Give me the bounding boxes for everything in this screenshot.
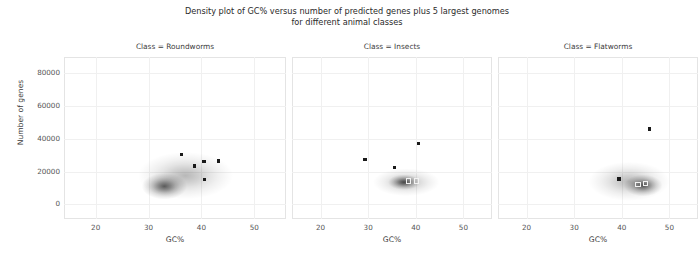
x-tick-label: 20 (512, 223, 542, 232)
scatter-point (406, 178, 411, 183)
x-axis-label-insects: GC% (292, 235, 492, 244)
x-tick-label: 50 (654, 223, 684, 232)
panel-title-roundworms: Class = Roundworms (64, 42, 286, 51)
x-axis-label-roundworms: GC% (64, 235, 286, 244)
x-tick-label: 20 (306, 223, 336, 232)
scatter-point (193, 164, 196, 167)
y-tick-label: 0 (14, 199, 60, 208)
figure-title: Density plot of GC% versus number of pre… (0, 6, 694, 28)
plot-area-insects (292, 57, 492, 219)
scatter-point (217, 159, 220, 162)
panel-title-flatworms: Class = Flatworms (498, 42, 698, 51)
kde-peak-contour (142, 173, 187, 199)
y-tick-label: 60000 (14, 101, 60, 110)
scatter-point (180, 153, 183, 156)
panel-flatworms: Class = Flatworms GC% 20304050 (498, 57, 698, 219)
scatter-point (393, 166, 396, 169)
kde-density-cloud (498, 57, 698, 219)
scatter-point (414, 178, 419, 183)
y-tick-label: 80000 (14, 68, 60, 77)
x-tick-label: 50 (239, 223, 269, 232)
panel-roundworms: Class = Roundworms GC% 20304050800006000… (64, 57, 286, 219)
x-tick-label: 40 (401, 223, 431, 232)
plot-area-flatworms (498, 57, 698, 219)
y-axis-label: Number of genes (16, 63, 25, 163)
y-tick-label: 40000 (14, 134, 60, 143)
x-tick-label: 30 (353, 223, 383, 232)
scatter-point (202, 160, 205, 163)
y-tick-label: 20000 (14, 167, 60, 176)
x-tick-label: 40 (186, 223, 216, 232)
x-tick-label: 30 (559, 223, 589, 232)
x-tick-label: 20 (81, 223, 111, 232)
x-tick-label: 50 (448, 223, 478, 232)
scatter-point (648, 127, 651, 130)
x-axis-label-flatworms: GC% (498, 235, 698, 244)
scatter-point (635, 182, 640, 187)
plot-area-roundworms (64, 57, 286, 219)
scatter-point (643, 181, 648, 186)
scatter-point (363, 158, 366, 161)
scatter-point (417, 142, 420, 145)
kde-density-cloud (64, 57, 286, 219)
kde-density-cloud (292, 57, 492, 219)
x-tick-label: 40 (607, 223, 637, 232)
panel-title-insects: Class = Insects (292, 42, 492, 51)
panel-insects: Class = Insects GC% 20304050 (292, 57, 492, 219)
scatter-point (203, 178, 206, 181)
scatter-point (617, 177, 620, 180)
x-tick-label: 30 (134, 223, 164, 232)
